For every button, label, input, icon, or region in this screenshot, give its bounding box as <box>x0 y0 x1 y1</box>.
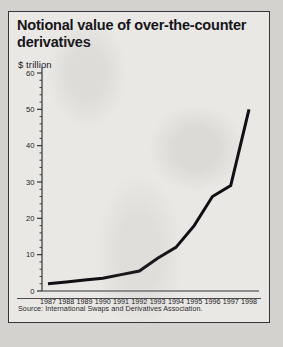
chart-source: Source: International Swaps and Derivati… <box>18 304 203 313</box>
line-chart-plot: 0102030405060198719881989199019911992199… <box>9 12 271 324</box>
y-axis-tick-label: 60 <box>26 69 34 78</box>
y-axis-tick-label: 50 <box>26 105 34 114</box>
source-divider <box>17 298 261 299</box>
y-axis-tick-label: 0 <box>30 287 34 296</box>
y-axis-tick-label: 10 <box>26 250 34 259</box>
y-axis-tick-label: 30 <box>26 178 34 187</box>
chart-figure: Notional value of over-the-counter deriv… <box>8 11 270 323</box>
data-series-line <box>48 109 249 283</box>
y-axis-tick-label: 20 <box>26 214 34 223</box>
y-axis-tick-label: 40 <box>26 141 34 150</box>
